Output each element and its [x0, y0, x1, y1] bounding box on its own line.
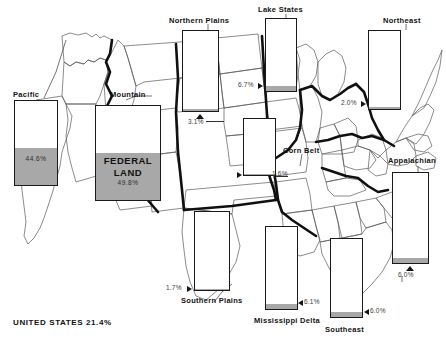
bar-mississippi-delta [265, 226, 298, 310]
marker-southern-plains [187, 286, 192, 292]
federal-land-map: 44.6% FEDERAL LAND 49.8% Pacific Mountai… [0, 0, 446, 338]
federal-land-line1: FEDERAL [96, 156, 160, 166]
pct-southeast: 6.0% [370, 307, 386, 314]
united-states-caption: UNITED STATES 21.4% [13, 318, 112, 327]
marker-northeast [361, 101, 366, 107]
bar-southeast [330, 238, 363, 318]
bar-mountain: FEDERAL LAND 49.8% [95, 105, 161, 201]
region-label-southern-plains: Southern Plains [181, 296, 243, 305]
marker-mississippi-delta [298, 300, 303, 306]
bar-lake-states [265, 18, 297, 92]
region-label-corn-belt: Corn Belt [283, 146, 319, 155]
pct-mississippi-delta: 6.1% [304, 298, 320, 305]
region-label-mississippi-delta: Mississippi Delta [254, 316, 320, 325]
leader-northern-plains [206, 121, 224, 122]
region-label-lake-states: Lake States [258, 5, 303, 14]
bar-fill-corn-belt [244, 174, 275, 175]
bar-northeast [368, 30, 401, 110]
leader-corn-belt [276, 176, 288, 177]
bar-value-pacific: 44.6% [15, 156, 57, 163]
region-label-northeast: Northeast [383, 16, 421, 25]
bar-fill-pacific [15, 148, 57, 185]
pct-northern-plains: 3.1% [188, 118, 204, 125]
bar-fill-mississippi-delta [266, 304, 297, 309]
bar-fill-lake-states [266, 86, 296, 91]
bar-corn-belt [243, 118, 276, 176]
pct-southern-plains: 1.7% [166, 284, 182, 291]
region-label-appalachian: Appalachian [388, 156, 436, 165]
pct-lake-states: 6.7% [238, 81, 254, 88]
bar-appalachian [392, 172, 429, 264]
marker-corn-belt [237, 172, 242, 178]
bar-fill-northeast [369, 107, 400, 109]
region-label-northern-plains: Northern Plains [169, 16, 229, 25]
bar-southern-plains [194, 211, 230, 291]
federal-land-line2: LAND [96, 168, 160, 178]
bar-fill-southeast [331, 312, 362, 317]
pct-northeast: 2.0% [341, 99, 357, 106]
marker-southeast [364, 309, 369, 315]
bar-northern-plains [182, 30, 219, 112]
federal-land-value: 49.8% [96, 180, 160, 187]
region-label-southeast: Southeast [325, 325, 364, 334]
marker-lake-states [258, 83, 263, 89]
pct-appalachian: 6.0% [398, 271, 414, 278]
bar-pacific: 44.6% [14, 100, 58, 186]
region-label-mountain: Mountain [110, 90, 146, 99]
bar-fill-northern-plains [183, 109, 218, 111]
bar-fill-appalachian [393, 258, 428, 263]
bar-fill-southern-plains [195, 289, 229, 290]
region-label-pacific: Pacific [13, 90, 39, 99]
